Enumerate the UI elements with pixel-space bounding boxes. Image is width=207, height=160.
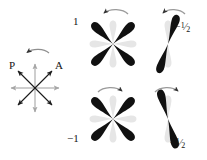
rotation-arrow-top-left-ccw xyxy=(104,10,128,14)
magnitude-bottom-left: 1 xyxy=(73,132,79,144)
panel-value-top-left: 1 xyxy=(73,16,79,27)
panel-value-bottom-left: −1 xyxy=(67,133,79,144)
numerator-bottom-right: 1 xyxy=(176,137,180,146)
star-arrow-upleft xyxy=(18,71,35,88)
panel-top-left xyxy=(89,20,137,68)
numerator-top-right: 1 xyxy=(181,21,185,30)
figure-canvas: P A 1 −1⁄2 −1 −1⁄2 xyxy=(0,0,207,160)
panel-value-bottom-right: −1⁄2 xyxy=(170,133,185,149)
star-arrow-downright xyxy=(35,88,52,105)
polarizer-label: P xyxy=(9,60,15,71)
panel-bottom-left xyxy=(89,95,137,143)
analyzer-label: A xyxy=(55,60,63,71)
star-rotation-arrow-ccw xyxy=(27,49,49,53)
denominator-bottom-right: 2 xyxy=(181,141,185,150)
sign-top-right: − xyxy=(175,21,181,32)
rotation-arrow-bottom-left-cw xyxy=(98,88,122,92)
star-arrow-downleft xyxy=(18,88,35,105)
panel-value-top-right: −1⁄2 xyxy=(175,17,190,33)
sign-bottom-right: − xyxy=(170,137,176,148)
polarizer-analyzer-star xyxy=(11,49,59,112)
rotation-arrow-top-right-ccw xyxy=(163,10,185,14)
denominator-top-right: 2 xyxy=(186,25,190,34)
star-arrow-upright xyxy=(35,71,52,88)
